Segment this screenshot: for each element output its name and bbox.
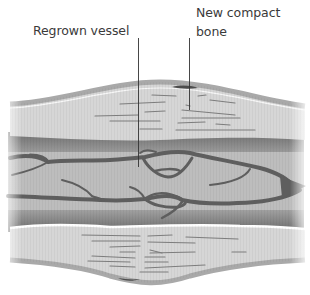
left-edge-fade [0, 80, 22, 290]
bone-cross-section-illustration [0, 0, 310, 295]
medullary-cavity [8, 132, 304, 232]
right-edge-fade [290, 80, 310, 290]
top-compact-bone [10, 82, 305, 141]
bottom-compact-bone [10, 225, 305, 283]
